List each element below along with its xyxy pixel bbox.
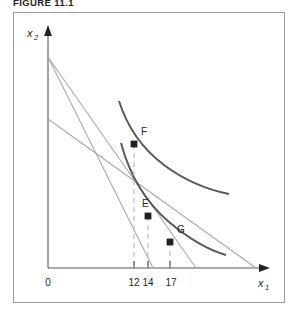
indifference-curve-low	[121, 143, 226, 255]
y-axis-arrow-icon	[44, 25, 52, 36]
data-point-g	[167, 239, 174, 246]
point-label-g: G	[177, 224, 185, 235]
point-label-e: E	[142, 198, 149, 209]
budget-line-compensated	[48, 57, 196, 268]
budget-line-original	[48, 57, 153, 268]
x-axis-arrow-icon	[259, 264, 270, 272]
y-axis-label: x	[26, 27, 33, 39]
x-tick-label-14: 14	[142, 277, 154, 288]
figure-container: FIGURE 11.1	[0, 0, 297, 317]
figure-caption: FIGURE 11.1	[13, 0, 74, 9]
y-axis-label-subscript: 2	[33, 33, 39, 42]
x-axis-label-subscript: 1	[265, 283, 269, 292]
indifference-curve-chart: F E G 12 14 17 0 x 2 x 1	[14, 13, 284, 302]
point-label-f: F	[141, 126, 147, 137]
data-point-e	[145, 213, 152, 220]
x-tick-label-12: 12	[128, 277, 140, 288]
plot-frame: F E G 12 14 17 0 x 2 x 1	[13, 12, 285, 303]
x-tick-label-17: 17	[165, 277, 177, 288]
origin-label: 0	[45, 277, 51, 288]
data-point-f	[131, 141, 138, 148]
x-axis-label: x	[257, 277, 264, 289]
